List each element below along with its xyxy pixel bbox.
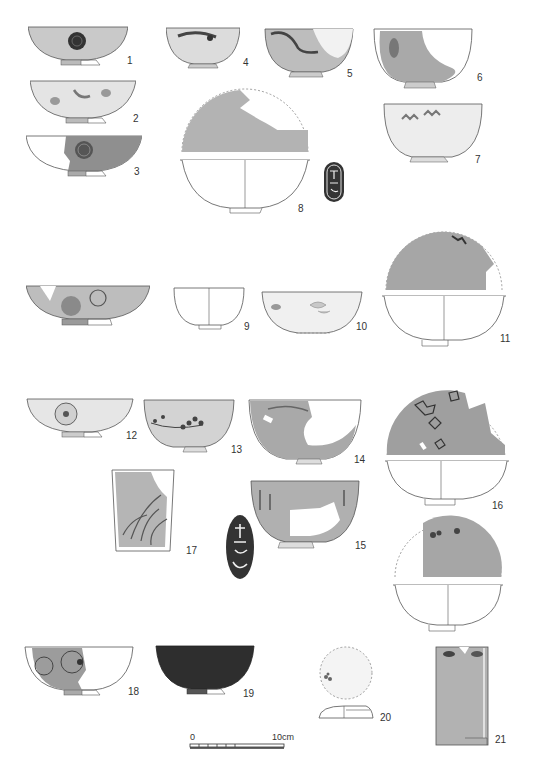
figure-2-bowl [30, 80, 136, 124]
figure-15-deep-bowl [248, 399, 362, 466]
bowl-drawing [143, 399, 235, 454]
figure-1-bowl [28, 26, 128, 66]
figure-11-label: 10 [356, 321, 367, 332]
scale-start-label: 0 [190, 732, 195, 742]
figure-13-bowl [26, 398, 134, 440]
bowl-drawing [385, 385, 509, 507]
figure-21-label: 19 [243, 688, 254, 699]
seal-mark-icon [225, 514, 255, 580]
figure-10-label: 9 [244, 321, 250, 332]
figure-15-label: 14 [354, 454, 365, 465]
bowl-drawing [372, 28, 474, 90]
bowl-drawing [166, 27, 240, 69]
figure-3-label: 3 [134, 166, 140, 177]
figure-17-label: 16 [492, 500, 503, 511]
figure-19-label: 17 [186, 545, 197, 556]
figure-6-label: 6 [477, 72, 483, 83]
scale-bar: 0 10cm [188, 732, 288, 754]
figure-1-label: 1 [127, 55, 133, 66]
bowl-drawing [24, 646, 134, 696]
figure-13-label: 12 [126, 430, 137, 441]
seal-mark-icon [323, 161, 345, 203]
figure-9-shallow-bowl [26, 285, 150, 327]
figure-16-seal-mark [225, 514, 255, 580]
figure-14-label: 13 [231, 444, 242, 455]
scale-end-label: 10cm [272, 732, 294, 742]
figure-21-bowl [155, 645, 255, 695]
figure-20-label: 18 [128, 686, 139, 697]
figure-8-label: 8 [298, 203, 304, 214]
figure-4-cup [166, 27, 240, 69]
bowl-drawing [30, 80, 136, 124]
figure-4-label: 4 [243, 57, 249, 68]
figure-10-cup [173, 287, 245, 331]
figure-12-label: 11 [500, 333, 510, 344]
bowl-drawing [26, 398, 134, 440]
figure-6-deep-bowl [372, 28, 474, 90]
cup-drawing [111, 469, 175, 553]
bowl-drawing [263, 28, 355, 78]
bowl-drawing [173, 287, 245, 331]
bowl-drawing [180, 80, 310, 215]
figure-20-bowl [24, 646, 134, 696]
figure-7-label: 7 [475, 154, 481, 165]
figure-7-bowl [382, 103, 484, 163]
figure-23-tall-vessel [435, 646, 489, 746]
bowl-drawing [26, 285, 150, 327]
bowl-drawing [382, 103, 484, 163]
bowl-drawing [382, 228, 506, 348]
figure-22-label: 20 [380, 712, 391, 723]
figure-5-label: 5 [347, 68, 353, 79]
figure-2-label: 2 [133, 113, 139, 124]
figure-22-lid [318, 646, 374, 722]
figure-12-bowl [382, 228, 506, 348]
bowl-drawing [250, 480, 360, 550]
scale-bar-graphic [188, 742, 288, 764]
figure-18-bowl [393, 515, 503, 632]
figure-17-bowl [385, 385, 509, 507]
vessel-drawing [435, 646, 489, 746]
figure-3-bowl [26, 135, 142, 177]
figure-16-label: 15 [355, 540, 366, 551]
figure-16-deep-bowl [250, 480, 360, 550]
bowl-drawing [26, 135, 142, 177]
bowl-drawing [260, 291, 364, 339]
lid-drawing [318, 646, 374, 722]
figure-19-tumbler [111, 469, 175, 553]
bowl-drawing [155, 645, 255, 695]
figure-5-bowl [263, 28, 355, 78]
figure-8-seal-mark [323, 161, 345, 203]
figure-23-label: 21 [495, 734, 506, 745]
figure-14-bowl [143, 399, 235, 454]
bowl-drawing [28, 26, 128, 66]
bowl-drawing [393, 515, 503, 632]
figure-8-bowl [180, 80, 310, 215]
bowl-drawing [248, 399, 362, 466]
figure-11-bowl [260, 291, 364, 339]
